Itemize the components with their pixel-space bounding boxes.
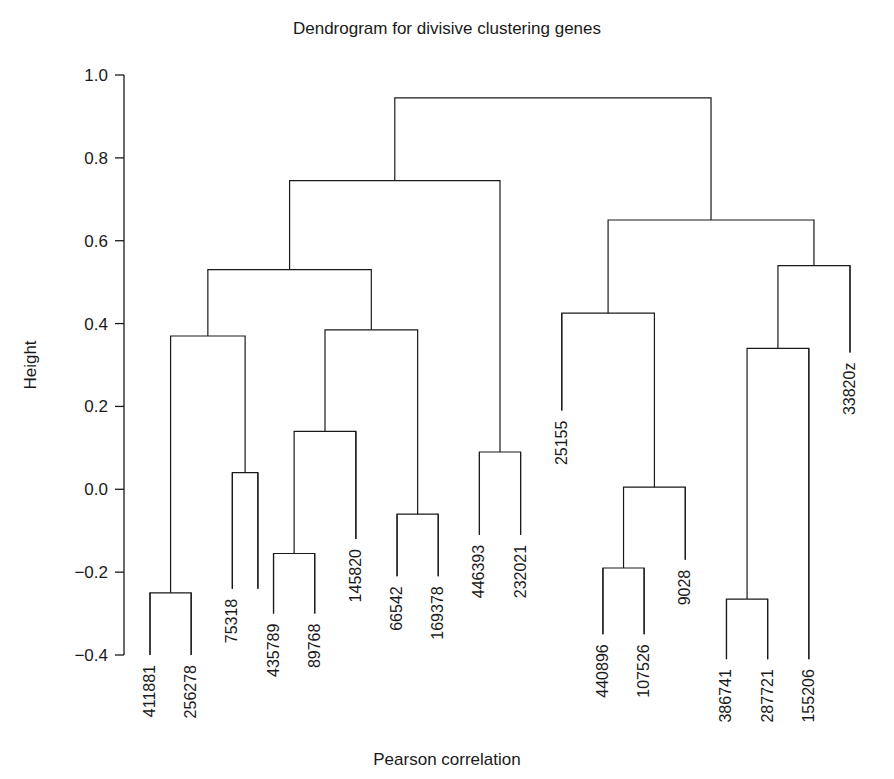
- dendrogram-link: [397, 514, 438, 576]
- y-axis-tick-label: 0.8: [84, 149, 108, 168]
- y-axis-title: Height: [21, 340, 40, 389]
- dendrogram-leaf-label: 9028: [676, 570, 693, 606]
- dendrogram-link: [232, 473, 258, 589]
- dendrogram-leaf-label: 89768: [306, 623, 323, 668]
- dendrogram-leaf-label: 232021: [512, 545, 529, 598]
- y-axis-tick-label: −0.2: [74, 563, 108, 582]
- dendrogram-leaf-label: 435789: [265, 623, 282, 676]
- dendrogram-leaf-label: 25155: [553, 420, 570, 465]
- dendrogram-link: [294, 431, 356, 553]
- dendrogram-leaf-label: 75318: [223, 599, 240, 644]
- dendrogram-leaf-label: 155206: [800, 669, 817, 722]
- dendrogram-link: [562, 313, 655, 487]
- dendrogram-link: [395, 98, 711, 220]
- dendrogram-link: [726, 599, 767, 659]
- dendrogram-leaf-label: 411881: [141, 665, 158, 717]
- dendrogram-leaf-label: 446393: [470, 545, 487, 598]
- dendrogram-link: [274, 554, 315, 614]
- dendrogram-leaf-label: 169378: [429, 586, 446, 639]
- dendrogram-leaf-label: 107526: [635, 644, 652, 697]
- dendrogram-leaf-label: 33820z: [841, 363, 858, 416]
- dendrogram-leaf-label: 386741: [717, 669, 734, 722]
- page-title: Dendrogram for divisive clustering genes: [293, 19, 601, 38]
- dendrogram-link: [171, 336, 246, 593]
- y-axis-tick-label: 0.0: [84, 480, 108, 499]
- y-axis: 1.00.80.60.40.20.0−0.2−0.4: [74, 66, 124, 665]
- dendrogram-link: [747, 348, 809, 659]
- y-axis-tick-label: 1.0: [84, 66, 108, 85]
- dendrogram-leaf-label: 256278: [182, 665, 199, 718]
- dendrogram-plot-container: Dendrogram for divisive clustering genes…: [0, 0, 894, 779]
- dendrogram-leaf-label: 66542: [388, 586, 405, 631]
- dendrogram-link: [208, 270, 371, 336]
- dendrogram-link: [325, 330, 418, 514]
- y-axis-tick-label: 0.6: [84, 232, 108, 251]
- y-axis-tick-label: −0.4: [74, 646, 108, 665]
- dendrogram-leaf-label: 145820: [347, 549, 364, 602]
- dendrogram-link: [778, 266, 850, 353]
- dendrogram-link: [290, 181, 500, 452]
- dendrogram-figure: Dendrogram for divisive clustering genes…: [0, 0, 894, 779]
- dendrogram-leaf-label: 287721: [759, 669, 776, 722]
- dendrogram-link: [479, 452, 520, 535]
- dendrogram-links: [150, 98, 850, 659]
- y-axis-tick-label: 0.4: [84, 315, 108, 334]
- dendrogram-link: [603, 568, 644, 634]
- dendrogram-leaf-label: 440896: [594, 644, 611, 697]
- x-axis-title: Pearson correlation: [373, 750, 520, 769]
- y-axis-tick-label: 0.2: [84, 397, 108, 416]
- dendrogram-link: [150, 593, 191, 655]
- dendrogram-link: [608, 220, 814, 313]
- dendrogram-link: [624, 487, 686, 568]
